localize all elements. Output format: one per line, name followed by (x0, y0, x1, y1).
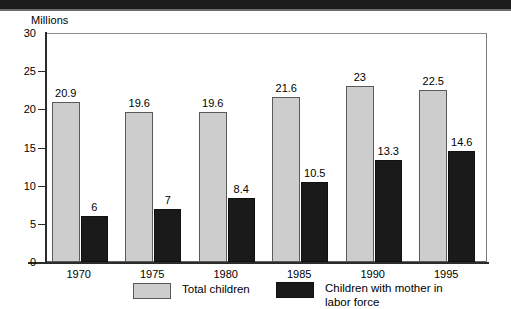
bar-value-label: 19.6 (190, 98, 236, 109)
y-axis-tick-label: 30 (2, 28, 36, 39)
y-axis-tick (38, 109, 46, 110)
bar-value-label: 21.6 (263, 83, 309, 94)
bar-value-label: 22.5 (410, 76, 456, 87)
bar-total-children-1985 (272, 97, 300, 262)
y-axis-tick (38, 186, 46, 187)
y-axis-tick-label: 25 (2, 66, 36, 77)
legend-swatch-total-children-icon (133, 283, 171, 299)
bar-total-children-1975 (125, 112, 153, 262)
legend-item-total-children: Total children (133, 282, 250, 299)
y-axis-tick-label: 15 (2, 142, 36, 153)
bar-mother-in-labor-force-1970 (81, 216, 108, 262)
y-axis-tick-label: 0 (2, 257, 36, 268)
bar-value-label: 23 (337, 72, 383, 83)
bar-mother-in-labor-force-1985 (301, 182, 328, 262)
x-axis-label-1975: 1975 (116, 268, 190, 280)
x-axis-label-1995: 1995 (410, 268, 484, 280)
legend-swatch-mother-in-labor-force-icon (276, 282, 314, 298)
scan-artifact-band (0, 0, 511, 9)
legend-label-total-children: Total children (182, 282, 250, 296)
y-axis-tick (38, 148, 46, 149)
bar-total-children-1970 (52, 102, 80, 262)
scan-artifact-band-lower (0, 9, 511, 11)
x-axis-line (28, 262, 489, 264)
bar-value-label: 19.6 (116, 98, 162, 109)
legend-item-mother-in-labor-force: Children with mother in labor force (276, 281, 443, 309)
y-axis-tick (38, 71, 46, 72)
bar-total-children-1995 (419, 90, 447, 262)
bar-value-label: 8.4 (219, 184, 264, 195)
y-axis-tick (38, 224, 46, 225)
x-axis-label-1990: 1990 (336, 268, 410, 280)
y-axis-tick-label: 10 (2, 180, 36, 191)
chart-figure: Millions 051015202530 20.9619.6719.68.42… (0, 0, 511, 309)
bar-mother-in-labor-force-1975 (154, 209, 181, 262)
bar-mother-in-labor-force-1995 (448, 151, 475, 262)
x-axis-label-1970: 1970 (42, 268, 116, 280)
y-axis-title: Millions (31, 14, 68, 27)
bar-mother-in-labor-force-1980 (228, 198, 255, 262)
bar-value-label: 10.5 (292, 168, 337, 179)
bar-value-label: 6 (72, 202, 117, 213)
bar-mother-in-labor-force-1990 (375, 160, 402, 262)
y-axis-tick-label: 20 (2, 104, 36, 115)
legend-label-mother-in-labor-force: Children with mother in labor force (325, 281, 443, 309)
x-axis-label-1985: 1985 (263, 268, 337, 280)
bar-value-label: 7 (145, 195, 190, 206)
bar-value-label: 20.9 (43, 88, 89, 99)
x-axis-label-1980: 1980 (189, 268, 263, 280)
bar-value-label: 14.6 (439, 137, 484, 148)
y-axis-tick-label: 5 (2, 218, 36, 229)
bar-total-children-1990 (346, 86, 374, 262)
bar-value-label: 13.3 (366, 146, 411, 157)
